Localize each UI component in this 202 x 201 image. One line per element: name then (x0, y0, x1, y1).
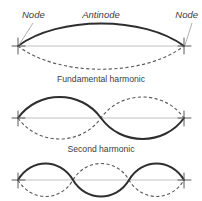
leader-line-node-right (185, 23, 192, 45)
caption-fundamental-harmonic: Fundamental harmonic (57, 74, 146, 84)
label-antinode: Antinode (81, 9, 120, 20)
label-node-right: Node (175, 9, 198, 20)
panel-fundamental-harmonic: Node Antinode Node Fundamental harmonic (12, 9, 198, 84)
label-node-left: Node (22, 9, 45, 20)
node-marker-left-fundamental (12, 38, 25, 54)
panel-second-harmonic: Second harmonic (12, 97, 191, 154)
standing-wave-diagram: Node Antinode Node Fundamental harmonic (0, 0, 202, 201)
dashed-wave-fundamental (18, 46, 184, 69)
node-marker-right-fundamental (178, 38, 191, 54)
node-marker-left-third (12, 173, 25, 188)
panel-third-harmonic (12, 164, 191, 197)
solid-wave-fundamental (18, 24, 184, 47)
caption-second-harmonic: Second harmonic (68, 144, 136, 154)
standing-wave-figure: Node Antinode Node Fundamental harmonic (0, 0, 202, 201)
